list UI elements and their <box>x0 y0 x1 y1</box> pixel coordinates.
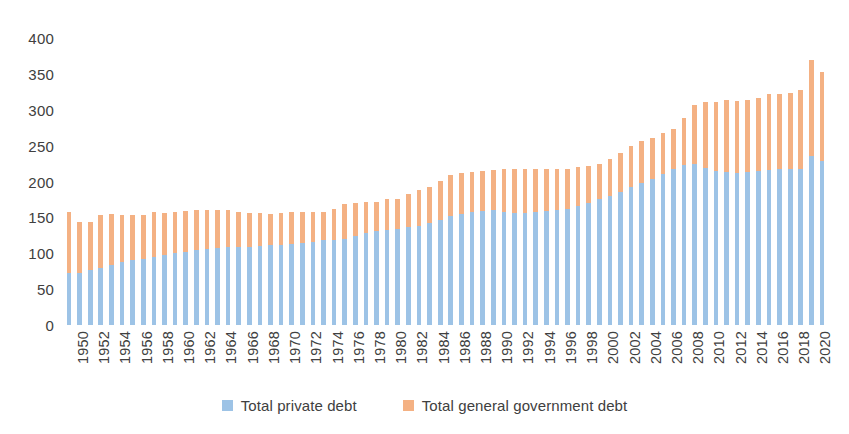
bar-column[interactable] <box>427 0 432 325</box>
bar-column[interactable] <box>735 0 740 325</box>
bar-column[interactable] <box>88 0 93 325</box>
bar-segment-government <box>523 169 528 213</box>
bar-column[interactable] <box>555 0 560 325</box>
bar-column[interactable] <box>608 0 613 325</box>
bar-column[interactable] <box>618 0 623 325</box>
bar-column[interactable] <box>459 0 464 325</box>
bar-column[interactable] <box>374 0 379 325</box>
bar-segment-government <box>374 202 379 231</box>
bar-column[interactable] <box>544 0 549 325</box>
bar-column[interactable] <box>650 0 655 325</box>
x-axis-tick: 1972 <box>308 331 324 364</box>
bar-column[interactable] <box>289 0 294 325</box>
bar-column[interactable] <box>576 0 581 325</box>
bar-column[interactable] <box>342 0 347 325</box>
bar-column[interactable] <box>364 0 369 325</box>
bar-column[interactable] <box>395 0 400 325</box>
bar-column[interactable] <box>788 0 793 325</box>
bar-column[interactable] <box>565 0 570 325</box>
bar-column[interactable] <box>523 0 528 325</box>
bar-column[interactable] <box>300 0 305 325</box>
bar-column[interactable] <box>671 0 676 325</box>
bar-segment-private <box>247 247 252 325</box>
bar-column[interactable] <box>268 0 273 325</box>
bar-column[interactable] <box>258 0 263 325</box>
bar-segment-government <box>533 169 538 212</box>
bar-column[interactable] <box>502 0 507 325</box>
bar-segment-government <box>342 204 347 238</box>
bar-column[interactable] <box>152 0 157 325</box>
bar-segment-government <box>98 215 103 267</box>
bar-column[interactable] <box>321 0 326 325</box>
bar-column[interactable] <box>236 0 241 325</box>
bar-column[interactable] <box>703 0 708 325</box>
bar-column[interactable] <box>98 0 103 325</box>
bar-column[interactable] <box>756 0 761 325</box>
bar-column[interactable] <box>417 0 422 325</box>
bar-column[interactable] <box>724 0 729 325</box>
bar-segment-private <box>173 253 178 325</box>
bar-column[interactable] <box>777 0 782 325</box>
bar-column[interactable] <box>173 0 178 325</box>
x-axis-tick: 1954 <box>117 331 133 364</box>
bar-column[interactable] <box>120 0 125 325</box>
bar-column[interactable] <box>438 0 443 325</box>
bar-column[interactable] <box>714 0 719 325</box>
bar-segment-government <box>650 138 655 179</box>
bar-column[interactable] <box>353 0 358 325</box>
x-axis-tick: 2000 <box>605 331 621 364</box>
bar-column[interactable] <box>406 0 411 325</box>
x-axis-tick: 1980 <box>393 331 409 364</box>
bar-column[interactable] <box>682 0 687 325</box>
bar-column[interactable] <box>767 0 772 325</box>
bar-column[interactable] <box>279 0 284 325</box>
plot-area <box>62 0 832 325</box>
bar-column[interactable] <box>194 0 199 325</box>
bar-column[interactable] <box>183 0 188 325</box>
bar-column[interactable] <box>130 0 135 325</box>
bar-segment-government <box>798 90 803 168</box>
bar-column[interactable] <box>205 0 210 325</box>
bar-segment-government <box>194 210 199 251</box>
bar-segment-government <box>300 212 305 243</box>
legend-entry-government[interactable]: Total general government debt <box>403 397 628 414</box>
bar-segment-government <box>258 213 263 246</box>
bar-column[interactable] <box>67 0 72 325</box>
bar-column[interactable] <box>332 0 337 325</box>
bar-column[interactable] <box>809 0 814 325</box>
bar-segment-private <box>205 249 210 325</box>
bar-segment-private <box>682 165 687 325</box>
bar-segment-private <box>236 247 241 325</box>
bar-column[interactable] <box>820 0 825 325</box>
bar-column[interactable] <box>226 0 231 325</box>
bar-column[interactable] <box>661 0 666 325</box>
bar-column[interactable] <box>480 0 485 325</box>
bar-column[interactable] <box>141 0 146 325</box>
bar-column[interactable] <box>798 0 803 325</box>
bar-column[interactable] <box>639 0 644 325</box>
x-axis-tick: 2020 <box>817 331 833 364</box>
bar-column[interactable] <box>512 0 517 325</box>
bar-column[interactable] <box>491 0 496 325</box>
bar-column[interactable] <box>745 0 750 325</box>
x-axis-tick: 1994 <box>542 331 558 364</box>
bar-column[interactable] <box>586 0 591 325</box>
bar-segment-government <box>173 212 178 254</box>
legend-entry-private[interactable]: Total private debt <box>222 397 357 414</box>
bar-column[interactable] <box>109 0 114 325</box>
bar-column[interactable] <box>448 0 453 325</box>
bar-column[interactable] <box>311 0 316 325</box>
bar-segment-private <box>215 248 220 325</box>
bar-segment-private <box>650 179 655 325</box>
bar-segment-government <box>311 212 316 241</box>
bar-column[interactable] <box>470 0 475 325</box>
bar-column[interactable] <box>162 0 167 325</box>
bar-column[interactable] <box>629 0 634 325</box>
bar-column[interactable] <box>247 0 252 325</box>
bar-column[interactable] <box>597 0 602 325</box>
bar-column[interactable] <box>385 0 390 325</box>
bar-column[interactable] <box>77 0 82 325</box>
bar-column[interactable] <box>533 0 538 325</box>
bar-column[interactable] <box>692 0 697 325</box>
bar-column[interactable] <box>215 0 220 325</box>
